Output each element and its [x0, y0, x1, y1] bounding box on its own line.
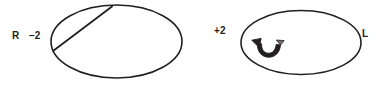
label-left-value: –2	[29, 31, 41, 41]
curved-arrow-icon	[252, 38, 284, 57]
diagram-svg	[0, 0, 379, 88]
chord-line	[53, 7, 112, 52]
diagram-canvas: R –2 +2 L	[0, 0, 379, 88]
label-right-value: +2	[214, 26, 226, 36]
label-right-side: L	[362, 29, 368, 39]
left-ellipse	[51, 5, 182, 78]
label-left-side: R	[12, 31, 19, 41]
